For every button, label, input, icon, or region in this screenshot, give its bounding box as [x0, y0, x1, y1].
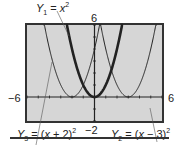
xmax-label: 6	[168, 92, 174, 104]
y1-label: Y1 = x2	[36, 2, 69, 14]
bottom-rule	[10, 137, 169, 139]
ymin-label: −2	[85, 124, 98, 136]
y1-exp: 2	[65, 1, 69, 8]
y3-exp: 2	[72, 127, 76, 134]
ymax-label: 6	[91, 12, 97, 24]
xmin-label: −6	[8, 92, 21, 104]
y2-exp: 2	[166, 127, 170, 134]
y1-equals: =	[47, 2, 60, 14]
